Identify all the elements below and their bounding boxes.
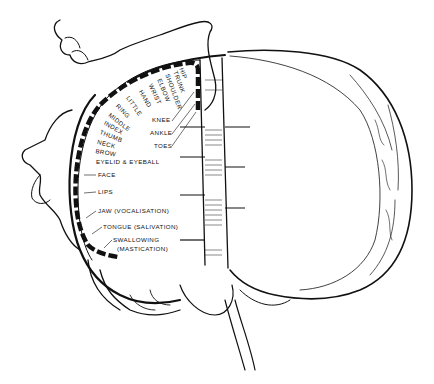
homunculus-diagram: Hip Trunk Shoulder Elbow Wrist Hand Litt… <box>0 0 434 384</box>
leader-lines <box>0 0 434 384</box>
